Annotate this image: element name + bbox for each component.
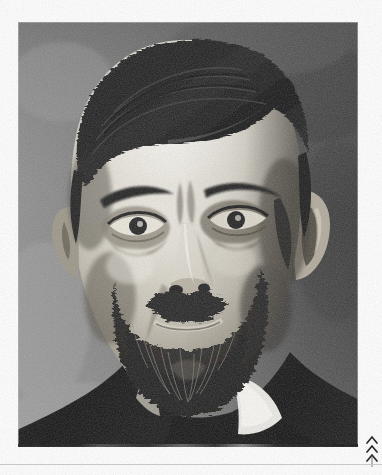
scanner-artifact-line <box>0 464 382 465</box>
halftone-grain <box>18 22 358 447</box>
plate-bottom-ink-edge <box>18 444 358 447</box>
chevron-marks <box>364 435 380 467</box>
portrait-photograph <box>18 22 358 447</box>
scanned-page <box>0 0 382 475</box>
portrait-raster <box>18 22 358 447</box>
